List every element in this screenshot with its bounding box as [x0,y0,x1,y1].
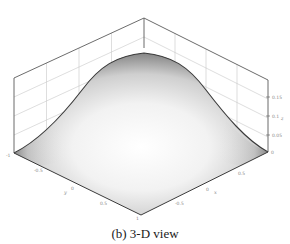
x-axis-label: x [214,189,217,195]
y-axis-label: y [63,189,67,196]
y-tick-0: 0 [71,186,74,191]
figure-caption: (b) 3-D view [0,226,290,242]
z-tick-0-15: 0.15 [272,95,282,100]
surface-plot-3d: 0.15 0.1 z 0.05 0 -1 -0.5 0 y 0.5 1 -0.5… [0,0,290,222]
y-tick-neg1: -1 [6,153,11,158]
x-tick-0-5: -0.5 [175,201,184,206]
x-tick-0: 0 [206,187,209,192]
x-tick-neg0-5: 0.5 [238,171,245,176]
y-tick-0-5: 0.5 [100,201,107,206]
z-tick-0: 0 [271,150,274,155]
bell-surface [14,53,268,215]
z-tick-0-1: 0.1 [272,114,279,119]
y-tick-1: 1 [136,216,139,221]
y-tick-neg0-5: -0.5 [34,168,43,173]
z-axis: 0.15 0.1 z 0.05 0 [266,95,284,156]
z-tick-0-05: 0.05 [272,133,282,138]
z-axis-label: z [280,115,284,121]
